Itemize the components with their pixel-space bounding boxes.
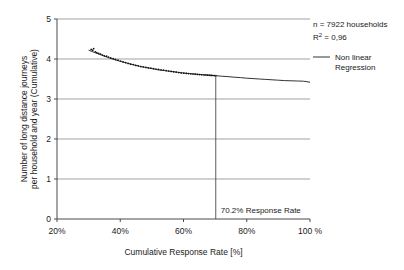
data-point	[140, 66, 142, 68]
data-point	[112, 58, 114, 60]
data-point	[197, 74, 199, 76]
data-point	[170, 71, 172, 73]
data-point	[160, 69, 162, 71]
x-tick-label-80: 80%	[238, 226, 255, 236]
data-point	[188, 73, 190, 75]
x-tick-label-100: 100 %	[298, 226, 323, 236]
data-point	[106, 55, 108, 57]
data-point	[108, 56, 110, 58]
data-point	[201, 74, 203, 76]
response-rate-marker-label: 70.2% Response Rate	[221, 206, 302, 215]
r-squared-annotation: R2 = 0,96	[313, 32, 347, 42]
data-point	[94, 51, 96, 53]
legend-label-line1: Non linear	[335, 53, 372, 62]
legend-label-line2: Regression	[335, 63, 375, 72]
x-axis-title: Cumulative Response Rate [%]	[124, 247, 242, 257]
y-axis-title-line2: per household and year (Cumulative)	[29, 49, 39, 189]
data-point	[110, 57, 112, 59]
data-point	[205, 74, 207, 76]
data-point	[203, 74, 205, 76]
y-tick-label-5: 5	[46, 14, 51, 24]
data-point	[178, 72, 180, 74]
data-point	[100, 53, 102, 55]
data-point	[150, 67, 152, 69]
data-point	[122, 61, 124, 63]
x-tick-label-40: 40%	[112, 226, 129, 236]
data-point	[183, 72, 185, 74]
data-point	[180, 72, 182, 74]
x-tick-label-60: 60%	[175, 226, 192, 236]
data-point	[173, 71, 175, 73]
data-point	[212, 75, 214, 77]
data-point	[148, 67, 150, 69]
data-point	[132, 64, 134, 66]
data-point	[117, 59, 119, 61]
data-point	[135, 65, 137, 67]
data-point	[199, 74, 201, 76]
r-squared-value: = 0,96	[322, 33, 347, 42]
data-point	[96, 52, 98, 54]
data-point	[186, 73, 188, 75]
data-point	[153, 68, 155, 70]
regression-chart: 012345 20%40%60%80%100 % 70.2% Response …	[0, 0, 404, 270]
data-point	[92, 49, 94, 51]
data-point	[145, 67, 147, 69]
y-tick-label-0: 0	[46, 214, 51, 224]
data-point	[192, 73, 194, 75]
data-point	[209, 74, 211, 76]
data-point	[137, 65, 139, 67]
data-point	[210, 75, 212, 77]
y-tick-label-3: 3	[46, 94, 51, 104]
sample-size-annotation: n = 7922 households	[313, 20, 388, 29]
data-point	[93, 48, 95, 50]
data-point	[194, 73, 196, 75]
data-point	[165, 70, 167, 72]
y-tick-label-4: 4	[46, 54, 51, 64]
data-point	[127, 63, 129, 65]
y-tick-label-2: 2	[46, 134, 51, 144]
data-point	[90, 49, 92, 51]
data-point	[163, 69, 165, 71]
data-point	[207, 74, 209, 76]
data-point	[168, 70, 170, 72]
data-point	[120, 60, 122, 62]
data-point	[98, 53, 100, 55]
x-tick-label-20: 20%	[48, 226, 65, 236]
data-point	[155, 68, 157, 70]
data-point	[125, 62, 127, 64]
data-point	[190, 73, 192, 75]
chart-container: 012345 20%40%60%80%100 % 70.2% Response …	[0, 0, 404, 270]
y-tick-label-1: 1	[46, 174, 51, 184]
data-point	[104, 55, 106, 57]
y-axis-title-line1: Number of long distance journeys	[19, 56, 29, 183]
data-point	[130, 63, 132, 65]
data-point	[175, 71, 177, 73]
data-point	[158, 69, 160, 71]
data-point	[142, 66, 144, 68]
data-point	[102, 54, 104, 56]
data-point	[115, 59, 117, 61]
